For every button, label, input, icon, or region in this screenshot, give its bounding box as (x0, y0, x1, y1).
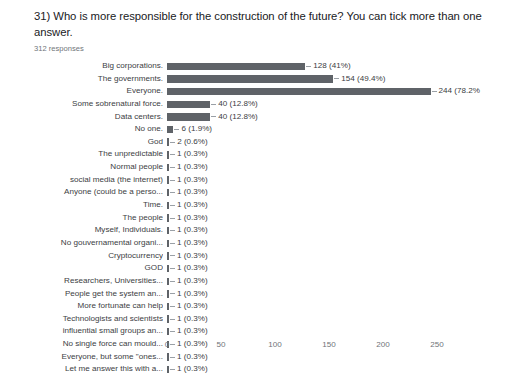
chart-row-label: Myself, Individuals. (0, 224, 163, 237)
chart-row-label: Big corporations. (0, 60, 163, 73)
chart-bar-area: 1 (0.3%) (167, 199, 208, 212)
x-axis-tick-label: 150 (322, 340, 336, 349)
chart-bar[interactable] (167, 113, 210, 120)
chart-row: influential small groups an...1 (0.3%) (0, 325, 513, 338)
chart-bar[interactable] (167, 328, 169, 335)
chart-data-label: 1 (0.3%) (177, 224, 208, 237)
chart-bar[interactable] (167, 202, 169, 209)
chart-data-label: 1 (0.3%) (177, 199, 208, 212)
leader-dash-icon (170, 243, 175, 244)
chart-data-label: 1 (0.3%) (177, 161, 208, 174)
chart-bar-area: 1 (0.3%) (167, 174, 208, 187)
leader-dash-icon (174, 129, 179, 130)
chart-bar[interactable] (167, 63, 305, 70)
chart-row-label: God (0, 136, 163, 149)
chart-bar-area: 1 (0.3%) (167, 224, 208, 237)
chart-bar[interactable] (167, 252, 169, 259)
chart-row-label: People get the system an... (0, 288, 163, 301)
response-count: 312 responses (34, 44, 482, 54)
chart-row: social media (the internet)1 (0.3%) (0, 174, 513, 187)
chart-bar[interactable] (167, 214, 169, 221)
chart-row: The governments.154 (49.4%) (0, 73, 513, 86)
chart-row-label: More fortunate can help (0, 300, 163, 313)
chart-row-label: Let me answer this with a... (0, 363, 163, 375)
chart-data-label: 1 (0.3%) (177, 250, 208, 263)
page-title: 31) Who is more responsible for the cons… (34, 8, 482, 40)
chart-bar-area: 40 (12.8%) (167, 111, 258, 124)
chart-data-label: 1 (0.3%) (177, 363, 208, 375)
chart-data-label: 154 (49.4%) (341, 73, 385, 86)
chart-row-label: The unpredictable (0, 148, 163, 161)
chart-row: God2 (0.6%) (0, 136, 513, 149)
x-axis-tick-label: 0 (165, 340, 170, 349)
chart-bar[interactable] (167, 151, 169, 158)
chart-bar-area: 1 (0.3%) (167, 161, 208, 174)
chart-data-label: 128 (41%) (313, 60, 350, 73)
chart-bar[interactable] (167, 240, 169, 247)
chart-row-label: Technologists and scientists (0, 313, 163, 326)
chart-bar[interactable] (167, 126, 173, 133)
chart-row: GOD1 (0.3%) (0, 262, 513, 275)
chart-bar-area: 1 (0.3%) (167, 262, 208, 275)
chart-row: Time.1 (0.3%) (0, 199, 513, 212)
chart-bar[interactable] (167, 138, 169, 145)
chart-bar[interactable] (167, 278, 169, 285)
chart-bar[interactable] (167, 164, 169, 171)
leader-dash-icon (170, 218, 175, 219)
chart-bar-area: 1 (0.3%) (167, 186, 208, 199)
chart-bar[interactable] (167, 227, 169, 234)
chart-row-label: No one. (0, 123, 163, 136)
leader-dash-icon (170, 192, 175, 193)
chart-bar-area: 6 (1.9%) (167, 123, 212, 136)
chart-data-label: 40 (12.8%) (218, 111, 258, 124)
chart-bar[interactable] (167, 101, 210, 108)
leader-dash-icon (170, 255, 175, 256)
chart-bar-area: 154 (49.4%) (167, 73, 385, 86)
chart-bar-area: 1 (0.3%) (167, 275, 208, 288)
chart-row: The people1 (0.3%) (0, 212, 513, 225)
chart-row-label: Time. (0, 199, 163, 212)
chart-row: Some sobrenatural force.40 (12.8%) (0, 98, 513, 111)
chart-row: Everyone.244 (78.2% (0, 85, 513, 98)
leader-dash-icon (170, 180, 175, 181)
chart-data-label: 1 (0.3%) (177, 237, 208, 250)
chart-row-label: Researchers, Universities... (0, 275, 163, 288)
chart-row-label: influential small groups an... (0, 325, 163, 338)
leader-dash-icon (170, 167, 175, 168)
leader-dash-icon (432, 91, 437, 92)
chart-data-label: 1 (0.3%) (177, 212, 208, 225)
chart-bar[interactable] (167, 75, 333, 82)
leader-dash-icon (170, 154, 175, 155)
chart-bar[interactable] (167, 88, 431, 95)
chart-bar-area: 1 (0.3%) (167, 288, 208, 301)
chart-bar-area: 1 (0.3%) (167, 363, 208, 375)
chart-row: Cryptocurrency1 (0.3%) (0, 250, 513, 263)
chart-data-label: 6 (1.9%) (181, 123, 212, 136)
leader-dash-icon (211, 116, 216, 117)
chart-bar[interactable] (167, 290, 169, 297)
chart-row-label: The governments. (0, 73, 163, 86)
chart-bar[interactable] (167, 189, 169, 196)
chart-bar[interactable] (167, 265, 169, 272)
chart-data-label: 1 (0.3%) (177, 186, 208, 199)
leader-dash-icon (211, 104, 216, 105)
chart-bar-area: 244 (78.2% (167, 85, 480, 98)
chart-data-label: 1 (0.3%) (177, 313, 208, 326)
chart-row-label: Data centers. (0, 111, 163, 124)
leader-dash-icon (334, 78, 339, 79)
chart-bar-area: 2 (0.6%) (167, 136, 208, 149)
chart-bar[interactable] (167, 303, 169, 310)
chart-bar[interactable] (167, 315, 169, 322)
x-axis-tick-label: 250 (430, 340, 444, 349)
chart-row-label: No gouvernamental organi... (0, 237, 163, 250)
chart-bar[interactable] (167, 366, 169, 373)
leader-dash-icon (170, 205, 175, 206)
chart-row: Big corporations.128 (41%) (0, 60, 513, 73)
chart-row-label: The people (0, 212, 163, 225)
chart-bar[interactable] (167, 176, 169, 183)
chart-row: Myself, Individuals.1 (0.3%) (0, 224, 513, 237)
chart-row-label: Some sobrenatural force. (0, 98, 163, 111)
chart-data-label: 244 (78.2% (439, 85, 480, 98)
leader-dash-icon (170, 331, 175, 332)
form-results-page: 31) Who is more responsible for the cons… (0, 0, 513, 375)
